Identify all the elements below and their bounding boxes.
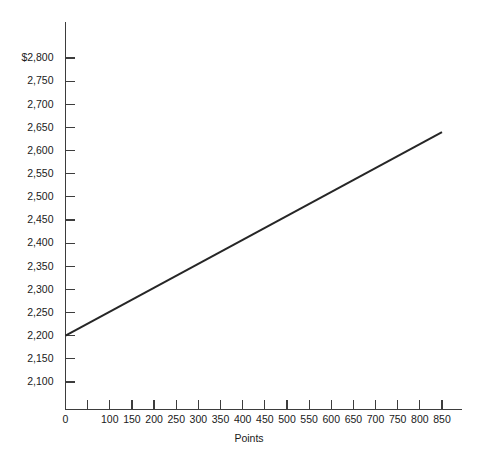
x-tick-label: 500 bbox=[278, 413, 296, 425]
x-tick-label: 850 bbox=[433, 413, 451, 425]
y-tick-label: 2,150 bbox=[27, 352, 53, 364]
y-tick-label: 2,350 bbox=[27, 260, 53, 272]
x-axis: 0100150200250300350400450500550600650700… bbox=[63, 400, 462, 425]
y-tick-label: 2,300 bbox=[27, 283, 53, 295]
x-tick-label: 150 bbox=[123, 413, 141, 425]
y-tick-group: 2,1002,1502,2002,2502,3002,3502,4002,450… bbox=[21, 51, 74, 387]
y-axis: 2,1002,1502,2002,2502,3002,3502,4002,450… bbox=[21, 22, 74, 409]
x-tick-label: 400 bbox=[234, 413, 252, 425]
series-line-cost bbox=[66, 132, 443, 336]
data-series-group bbox=[66, 132, 443, 336]
y-tick-label: 2,500 bbox=[27, 190, 53, 202]
x-tick-label: 0 bbox=[63, 413, 69, 425]
x-tick-label: 100 bbox=[101, 413, 119, 425]
x-tick-label: 350 bbox=[212, 413, 230, 425]
y-tick-label: 2,250 bbox=[27, 306, 53, 318]
chart-canvas: 2,1002,1502,2002,2502,3002,3502,4002,450… bbox=[0, 0, 489, 465]
x-tick-label: 200 bbox=[145, 413, 163, 425]
x-tick-label: 700 bbox=[367, 413, 385, 425]
x-tick-label: 550 bbox=[300, 413, 318, 425]
y-tick-label: 2,750 bbox=[27, 74, 53, 86]
y-tick-label: 2,600 bbox=[27, 144, 53, 156]
x-tick-label: 300 bbox=[190, 413, 208, 425]
x-tick-label: 800 bbox=[411, 413, 429, 425]
y-tick-label: 2,100 bbox=[27, 375, 53, 387]
y-tick-label: $2,800 bbox=[21, 51, 53, 63]
x-tick-label: 250 bbox=[167, 413, 185, 425]
y-tick-label: 2,450 bbox=[27, 213, 53, 225]
x-axis-title: Points bbox=[234, 432, 263, 444]
y-tick-label: 2,550 bbox=[27, 167, 53, 179]
line-chart: 2,1002,1502,2002,2502,3002,3502,4002,450… bbox=[0, 0, 489, 465]
x-tick-group: 0100150200250300350400450500550600650700… bbox=[63, 400, 451, 425]
y-tick-label: 2,400 bbox=[27, 236, 53, 248]
y-tick-label: 2,700 bbox=[27, 98, 53, 110]
x-tick-label: 450 bbox=[256, 413, 274, 425]
x-tick-label: 650 bbox=[345, 413, 363, 425]
y-tick-label: 2,650 bbox=[27, 121, 53, 133]
x-tick-label: 750 bbox=[389, 413, 407, 425]
x-tick-label: 600 bbox=[322, 413, 340, 425]
y-tick-label: 2,200 bbox=[27, 329, 53, 341]
